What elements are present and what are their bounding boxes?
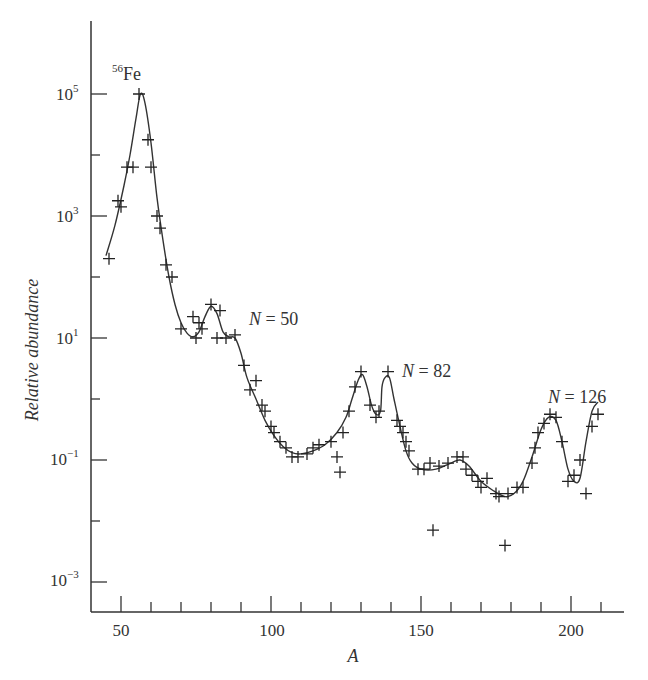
data-point-plus-icon bbox=[325, 436, 337, 448]
data-point-plus-icon bbox=[115, 201, 127, 213]
data-point-plus-icon bbox=[418, 463, 430, 475]
data-point-plus-icon bbox=[562, 475, 574, 487]
data-point-plus-icon bbox=[382, 366, 394, 378]
data-point-plus-icon bbox=[502, 488, 514, 500]
data-point-plus-icon bbox=[466, 469, 478, 481]
data-point-plus-icon bbox=[538, 417, 550, 429]
data-point-plus-icon bbox=[259, 405, 271, 417]
data-point-plus-icon bbox=[349, 381, 361, 393]
data-point-plus-icon bbox=[214, 305, 226, 317]
data-point-plus-icon bbox=[145, 161, 157, 173]
data-point-plus-icon bbox=[343, 405, 355, 417]
data-point-plus-icon bbox=[205, 298, 217, 310]
data-point-plus-icon bbox=[229, 329, 241, 341]
data-point-plus-icon bbox=[103, 253, 115, 265]
data-point-plus-icon bbox=[154, 222, 166, 234]
abundance-chart: 105 103 101 10−1 10−3 50 100 150 200 A R… bbox=[0, 0, 648, 680]
data-point-plus-icon bbox=[313, 439, 325, 451]
data-point-plus-icon bbox=[556, 436, 568, 448]
annotation-fe56: 56Fe bbox=[112, 62, 141, 84]
data-point-plus-icon bbox=[337, 427, 349, 439]
data-point-plus-icon bbox=[187, 311, 199, 323]
annotation-n50: N = 50 bbox=[248, 309, 298, 329]
data-point-plus-icon bbox=[397, 427, 409, 439]
data-point-plus-icon bbox=[373, 405, 385, 417]
data-point-plus-icon bbox=[529, 442, 541, 454]
data-point-plus-icon bbox=[142, 134, 154, 146]
data-point-plus-icon bbox=[364, 399, 376, 411]
x-tick-labels: 50 100 150 200 bbox=[113, 621, 584, 640]
data-point-plus-icon bbox=[472, 475, 484, 487]
data-point-plus-icon bbox=[394, 420, 406, 432]
data-point-plus-icon bbox=[331, 451, 343, 463]
x-axis-title: A bbox=[347, 646, 360, 666]
data-point-plus-icon bbox=[400, 436, 412, 448]
data-point-plus-icon bbox=[568, 469, 580, 481]
data-point-plus-icon bbox=[151, 210, 163, 222]
data-point-plus-icon bbox=[334, 466, 346, 478]
y-tick-1e-3: 10−3 bbox=[50, 568, 79, 590]
data-point-plus-icon bbox=[391, 414, 403, 426]
data-point-plus-icon bbox=[460, 463, 472, 475]
data-point-plus-icon bbox=[238, 359, 250, 371]
data-point-plus-icon bbox=[433, 460, 445, 472]
data-point-plus-icon bbox=[220, 332, 232, 344]
data-point-plus-icon bbox=[442, 457, 454, 469]
data-point-plus-icon bbox=[190, 332, 202, 344]
data-point-plus-icon bbox=[424, 457, 436, 469]
data-point-plus-icon bbox=[160, 259, 172, 271]
data-point-plus-icon bbox=[475, 481, 487, 493]
annotation-n82: N = 82 bbox=[401, 361, 451, 381]
axis-ticks bbox=[91, 94, 601, 612]
y-tick-1e1: 101 bbox=[56, 326, 79, 348]
y-tick-labels: 105 103 101 10−1 10−3 bbox=[50, 82, 79, 590]
data-point-plus-icon bbox=[550, 411, 562, 423]
x-tick-50: 50 bbox=[113, 621, 130, 640]
y-tick-1e5: 105 bbox=[56, 82, 79, 104]
data-point-plus-icon bbox=[265, 420, 277, 432]
data-point-plus-icon bbox=[250, 375, 262, 387]
x-tick-150: 150 bbox=[408, 621, 434, 640]
data-points bbox=[103, 88, 604, 551]
x-tick-100: 100 bbox=[259, 621, 285, 640]
fit-curve bbox=[106, 93, 598, 497]
y-tick-1e3: 103 bbox=[56, 204, 79, 226]
data-point-plus-icon bbox=[256, 399, 268, 411]
annotation-n126: N = 126 bbox=[547, 387, 606, 407]
data-point-plus-icon bbox=[499, 539, 511, 551]
data-point-plus-icon bbox=[193, 317, 205, 329]
data-point-plus-icon bbox=[301, 448, 313, 460]
data-point-plus-icon bbox=[355, 366, 367, 378]
axes bbox=[91, 21, 624, 612]
data-point-plus-icon bbox=[427, 524, 439, 536]
data-point-plus-icon bbox=[175, 323, 187, 335]
y-tick-1e-1: 10−1 bbox=[50, 447, 79, 469]
y-axis-title: Relative abundance bbox=[22, 279, 42, 422]
data-point-plus-icon bbox=[592, 408, 604, 420]
x-tick-200: 200 bbox=[558, 621, 584, 640]
data-point-plus-icon bbox=[517, 481, 529, 493]
data-point-plus-icon bbox=[580, 488, 592, 500]
data-point-plus-icon bbox=[457, 451, 469, 463]
